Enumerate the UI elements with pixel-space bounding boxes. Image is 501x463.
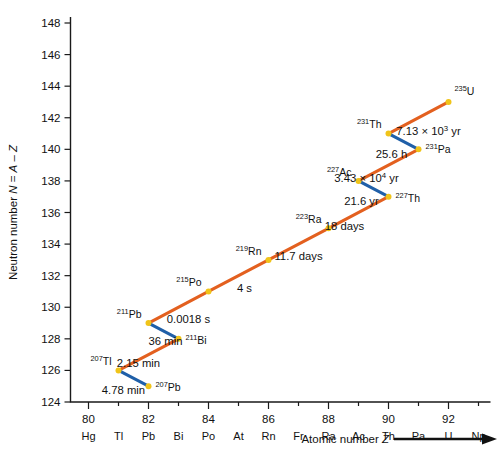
x-axis-element-label: Rn xyxy=(261,430,275,442)
y-axis-tick-label: 126 xyxy=(41,364,60,376)
x-axis-element-label: Hg xyxy=(81,430,95,442)
halflife-label: 18 days xyxy=(325,220,365,232)
halflife-label: 7.13 × 103 yr xyxy=(396,123,461,137)
x-axis-element-label: Pb xyxy=(142,430,155,442)
x-axis-number-label: 86 xyxy=(262,413,275,425)
y-axis-tick-label: 138 xyxy=(41,175,60,187)
nuclide-node xyxy=(446,99,452,105)
halflife-label: 36 min xyxy=(149,335,183,347)
nuclide-node xyxy=(386,131,392,137)
decay-chain-figure: 1241261281301321341361381401421441461488… xyxy=(0,0,501,463)
y-axis-tick-label: 128 xyxy=(41,333,60,345)
nuclide-node xyxy=(386,194,392,200)
x-axis-number-label: 88 xyxy=(322,413,335,425)
y-axis-tick-label: 136 xyxy=(41,207,60,219)
y-axis-tick-label: 124 xyxy=(41,396,61,408)
halflife-label: 4.78 min xyxy=(102,384,145,396)
halflife-label: 4 s xyxy=(237,282,252,294)
halflife-label: 0.0018 s xyxy=(167,313,211,325)
y-axis-tick-label: 134 xyxy=(41,238,61,250)
nuclide-node xyxy=(206,288,212,294)
halflife-label: 25.6 h xyxy=(376,148,407,160)
nuclide-node xyxy=(146,320,152,326)
y-axis-tick-label: 146 xyxy=(41,49,60,61)
nuclide-node xyxy=(266,257,272,263)
y-axis-tick-label: 132 xyxy=(41,270,60,282)
plot-background xyxy=(0,0,501,463)
y-axis-tick-label: 148 xyxy=(41,17,60,29)
y-axis-title-text: Neutron number N = A – Z xyxy=(7,144,19,280)
x-axis-title-text: Atomic number Z xyxy=(301,433,390,445)
y-axis-tick-label: 142 xyxy=(41,112,60,124)
halflife-label: 3.43 × 104 yr xyxy=(334,171,399,185)
nuclide-node xyxy=(146,383,152,389)
x-axis-element-label: At xyxy=(233,430,243,442)
halflife-label: 2.15 min xyxy=(117,357,160,369)
y-axis-tick-label: 140 xyxy=(41,143,60,155)
x-axis-number-label: 80 xyxy=(82,413,95,425)
x-axis-element-label: Bi xyxy=(174,430,184,442)
y-axis-tick-label: 144 xyxy=(41,80,61,92)
halflife-label: 11.7 days xyxy=(274,250,323,262)
x-axis-number-label: 90 xyxy=(382,413,395,425)
decay-chain-plot: 1241261281301321341361381401421441461488… xyxy=(0,0,501,463)
x-axis-element-label: Po xyxy=(202,430,215,442)
x-axis-number-label: 84 xyxy=(202,413,215,425)
x-axis-element-label: Tl xyxy=(114,430,123,442)
y-axis-title: Neutron number N = A – Z xyxy=(7,144,19,280)
x-axis-number-label: 82 xyxy=(142,413,155,425)
y-axis-tick-label: 130 xyxy=(41,301,60,313)
x-axis-number-label: 92 xyxy=(442,413,455,425)
halflife-label: 21.6 yr xyxy=(344,195,379,207)
nuclide-node xyxy=(416,146,422,152)
